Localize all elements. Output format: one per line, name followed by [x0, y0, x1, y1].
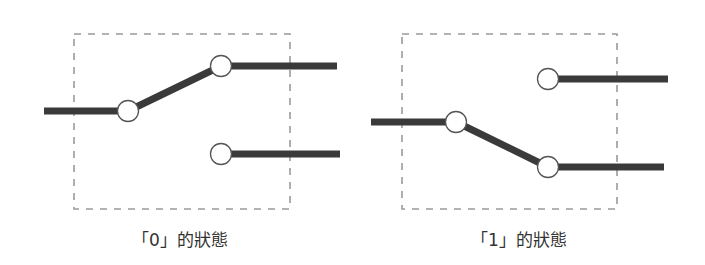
switch-state-1-diagram — [371, 34, 668, 209]
pivot-contact-icon — [118, 101, 139, 122]
caption-state-0: 「0」的狀態 — [132, 226, 228, 251]
pivot-contact-icon — [446, 112, 467, 133]
switch-lever — [128, 66, 221, 111]
dashed-boundary-box — [74, 34, 290, 209]
switch-diagrams-canvas — [0, 0, 705, 265]
caption-state-1: 「1」的狀態 — [471, 226, 567, 251]
bottom-contact-icon — [211, 144, 232, 165]
top-contact-icon — [211, 56, 232, 77]
switch-lever — [456, 122, 548, 167]
top-contact-icon — [538, 69, 559, 90]
bottom-contact-icon — [538, 157, 559, 178]
switch-state-0-diagram — [44, 34, 340, 209]
